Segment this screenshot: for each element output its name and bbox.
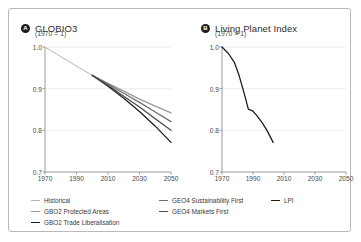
legend-column-1: HistoricalGBO2 Protected AreasGBO2 Trade… <box>31 195 119 228</box>
legend-swatch-icon <box>31 200 40 201</box>
y-axis-label: 0.8 <box>210 127 219 134</box>
y-axis-label: 1.0 <box>210 44 219 51</box>
series-line <box>222 47 273 142</box>
chart-panel-globio3: AGLOBIO3 (1970 = 1) 1.00.90.80.719701990… <box>9 9 189 191</box>
series-line <box>45 47 92 75</box>
x-axis-label: 2030 <box>132 175 147 182</box>
legend-column-3: LPI <box>271 195 294 206</box>
legend-swatch-icon <box>159 211 168 212</box>
x-axis-label: 1990 <box>246 175 261 182</box>
x-axis-label: 2050 <box>339 175 354 182</box>
y-axis-label: 0.9 <box>33 85 42 92</box>
x-axis-label: 1990 <box>69 175 84 182</box>
legend-label: Historical <box>44 195 70 206</box>
plot-area-globio3: 1.00.90.80.719701990201020302050 <box>45 47 171 172</box>
panel-marker-a: A <box>21 24 30 33</box>
legend-swatch-icon <box>31 222 40 223</box>
panel-a-subtitle: (1970 = 1) <box>35 30 66 37</box>
x-axis-label: 2010 <box>101 175 116 182</box>
panel-marker-b: B <box>201 24 210 33</box>
legend-column-2: GEO4 Sustainability FirstGEO4 Markets Fi… <box>159 195 243 217</box>
chart-panel-lpi: BLiving Planet Index (1970 = 1) 1.00.90.… <box>189 9 352 191</box>
x-axis-label: 2050 <box>164 175 179 182</box>
x-axis-label: 2030 <box>308 175 323 182</box>
x-axis-label: 2010 <box>277 175 292 182</box>
legend-label: GBO2 Protected Areas <box>44 206 109 217</box>
legend-item[interactable]: GEO4 Markets First <box>159 206 243 217</box>
legend-item[interactable]: GBO2 Protected Areas <box>31 206 119 217</box>
legend-item[interactable]: GEO4 Sustainability First <box>159 195 243 206</box>
plot-area-lpi: 1.00.90.80.719701990201020302050 <box>222 47 346 172</box>
legend-item[interactable]: GBO2 Trade Liberalisation <box>31 217 119 228</box>
legend-item[interactable]: LPI <box>271 195 294 206</box>
series-line <box>92 75 171 130</box>
series-line <box>92 75 171 142</box>
y-axis-label: 0.8 <box>33 127 42 134</box>
legend-swatch-icon <box>271 200 280 201</box>
lpi-line-chart <box>222 47 346 172</box>
x-axis-label: 1970 <box>38 175 53 182</box>
chart-legend: HistoricalGBO2 Protected AreasGBO2 Trade… <box>9 195 352 231</box>
y-axis-label: 1.0 <box>33 44 42 51</box>
legend-label: GEO4 Sustainability First <box>172 195 243 206</box>
legend-swatch-icon <box>159 200 168 201</box>
legend-label: GBO2 Trade Liberalisation <box>44 217 119 228</box>
legend-label: GEO4 Markets First <box>172 206 228 217</box>
legend-item[interactable]: Historical <box>31 195 119 206</box>
figure-frame: AGLOBIO3 (1970 = 1) 1.00.90.80.719701990… <box>8 8 351 232</box>
legend-label: LPI <box>284 195 294 206</box>
x-axis-label: 1970 <box>215 175 230 182</box>
legend-swatch-icon <box>31 211 40 212</box>
globio3-line-chart <box>45 47 171 172</box>
y-axis-label: 0.9 <box>210 85 219 92</box>
panel-b-subtitle: (1970 = 1) <box>215 30 246 37</box>
series-line <box>92 75 171 113</box>
